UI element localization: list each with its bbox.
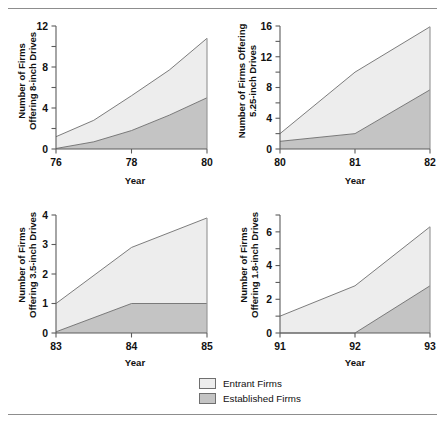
svg-text:0: 0 — [42, 328, 48, 339]
x-axis-label-1-8-inch: Year — [280, 357, 430, 368]
legend-swatch-established — [199, 393, 216, 404]
svg-text:80: 80 — [201, 157, 213, 168]
svg-text:16: 16 — [260, 21, 272, 32]
svg-text:1: 1 — [42, 298, 48, 309]
svg-text:76: 76 — [50, 157, 62, 168]
chart-panel-5-25-inch: Number of Firms Offering 5.25-inch Drive… — [222, 14, 445, 194]
y-axis-label-line1: Number of Firms — [238, 195, 249, 335]
y-axis-label-8-inch: Number of Firms Offering 8-inch Drives — [16, 11, 40, 151]
legend-label-entrant: Entrant Firms — [223, 378, 282, 389]
y-axis-label-line2: Offering 8-inch Drives — [27, 11, 38, 151]
svg-text:80: 80 — [274, 157, 286, 168]
svg-text:93: 93 — [424, 341, 436, 352]
legend-swatch-entrant — [199, 378, 216, 389]
y-axis-label-5-25-inch: Number of Firms Offering 5.25-inch Drive… — [236, 11, 260, 151]
svg-text:8: 8 — [266, 82, 272, 93]
legend-label-established: Established Firms — [223, 393, 301, 404]
legend: Entrant Firms Established Firms — [199, 376, 301, 406]
svg-text:2: 2 — [42, 269, 48, 280]
x-axis-label-3-5-inch: Year — [60, 357, 210, 368]
x-axis-label-8-inch: Year — [60, 175, 210, 186]
svg-text:78: 78 — [126, 157, 138, 168]
bottom-divider-rule — [8, 414, 437, 415]
y-axis-label-1-8-inch: Number of Firms Offering 1.8-inch Drives — [238, 195, 262, 335]
svg-text:0: 0 — [266, 328, 272, 339]
figure-root: Number of Firms Offering 8-inch Drives Y… — [0, 0, 445, 423]
chart-panel-8-inch: Number of Firms Offering 8-inch Drives Y… — [0, 14, 222, 194]
y-axis-label-line2: Offering 3.5-inch Drives — [27, 195, 38, 335]
svg-text:84: 84 — [126, 341, 138, 352]
top-divider-rule — [8, 8, 437, 9]
svg-text:8: 8 — [42, 62, 48, 73]
svg-text:0: 0 — [42, 144, 48, 155]
svg-text:3: 3 — [42, 239, 48, 250]
svg-text:12: 12 — [260, 52, 272, 63]
chart-panel-1-8-inch: Number of Firms Offering 1.8-inch Drives… — [222, 205, 445, 375]
y-axis-label-line2: Offering 1.8-inch Drives — [249, 195, 260, 335]
y-axis-label-line2: 5.25-inch Drives — [247, 11, 258, 151]
svg-text:81: 81 — [349, 157, 361, 168]
svg-text:4: 4 — [266, 260, 272, 271]
svg-text:82: 82 — [424, 157, 436, 168]
svg-text:4: 4 — [42, 103, 48, 114]
svg-text:91: 91 — [274, 341, 286, 352]
svg-text:6: 6 — [266, 227, 272, 238]
y-axis-label-line1: Number of Firms Offering — [236, 11, 247, 151]
svg-text:83: 83 — [50, 341, 62, 352]
svg-text:92: 92 — [349, 341, 361, 352]
y-axis-label-line1: Number of Firms — [16, 195, 27, 335]
y-axis-label-line1: Number of Firms — [16, 11, 27, 151]
svg-text:4: 4 — [42, 210, 48, 221]
svg-text:4: 4 — [266, 113, 272, 124]
svg-text:85: 85 — [201, 341, 213, 352]
svg-text:0: 0 — [266, 144, 272, 155]
svg-text:2: 2 — [266, 294, 272, 305]
x-axis-label-5-25-inch: Year — [280, 175, 430, 186]
y-axis-label-3-5-inch: Number of Firms Offering 3.5-inch Drives — [16, 195, 40, 335]
chart-panel-3-5-inch: Number of Firms Offering 3.5-inch Drives… — [0, 205, 222, 375]
legend-item-entrant: Entrant Firms — [199, 376, 301, 390]
legend-item-established: Established Firms — [199, 391, 301, 405]
